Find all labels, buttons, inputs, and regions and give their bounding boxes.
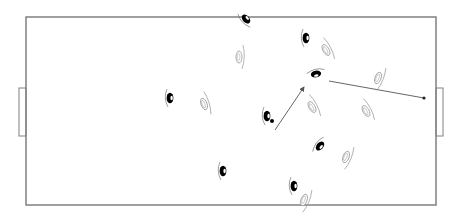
player-a-a1-icon[interactable] <box>165 89 173 107</box>
player-a-a6-icon[interactable] <box>311 136 329 155</box>
ball-icon[interactable] <box>270 119 274 123</box>
player-b-b6-icon[interactable] <box>357 98 376 123</box>
player-b-b3-icon[interactable] <box>317 37 336 62</box>
pass-arrow <box>275 87 304 130</box>
player-b-b4-icon[interactable] <box>371 66 387 91</box>
player-b-b5-icon[interactable] <box>303 94 322 119</box>
player-b-b2-icon[interactable] <box>236 45 244 69</box>
player-a-a7-icon[interactable] <box>218 162 226 180</box>
tactics-diagram <box>0 0 462 224</box>
ball-layer <box>270 119 274 123</box>
player-a-a8-icon[interactable] <box>289 177 297 195</box>
player-a-a4-icon[interactable] <box>262 107 270 125</box>
pitch-boundary <box>26 17 436 205</box>
arrow-end-dot <box>422 96 425 99</box>
goal-left <box>19 88 26 136</box>
player-b-b8-icon[interactable] <box>297 188 313 213</box>
player-a-a5-icon[interactable] <box>306 68 325 79</box>
player-a-a2-icon[interactable] <box>237 10 255 29</box>
player-b-b7-icon[interactable] <box>339 145 355 170</box>
tactics-board <box>0 0 462 224</box>
movement-arrows <box>275 81 426 130</box>
player-a-a3-icon[interactable] <box>301 29 309 47</box>
team-a <box>165 10 328 195</box>
player-b-b1-icon[interactable] <box>197 91 213 116</box>
pitch <box>19 17 443 205</box>
goal-right <box>436 88 443 136</box>
